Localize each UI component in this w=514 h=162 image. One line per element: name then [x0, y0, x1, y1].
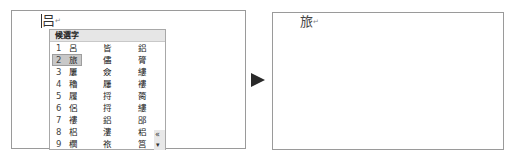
candidate-char[interactable]: 旅 — [69, 54, 78, 66]
candidate-row[interactable]: 6 侶 捋 縷 — [50, 102, 165, 114]
candidate-number: 9 — [56, 138, 61, 150]
candidate-row-selected[interactable]: 2 旅 儘 膂 — [50, 54, 165, 66]
candidate-char[interactable]: 履 — [69, 90, 78, 102]
candidate-char[interactable]: 鋁 — [103, 114, 112, 126]
candidate-char[interactable]: 膐 — [138, 90, 147, 102]
candidate-char[interactable]: 穭 — [69, 78, 78, 90]
candidate-char[interactable]: 筥 — [138, 138, 147, 150]
page-up-icon[interactable]: « — [155, 130, 160, 140]
candidate-popup-header: 候選字 — [50, 30, 165, 42]
candidate-number: 2 — [56, 54, 61, 66]
candidate-row[interactable]: 4 穭 屨 褸 — [50, 78, 165, 90]
candidate-row[interactable]: 5 履 捋 膐 — [50, 90, 165, 102]
editor-before[interactable]: 吕↵ 候選字 1 呂 皆 鋁 2 旅 儘 膂 3 屢 僉 縷 4 穭 屨 褸 — [11, 10, 246, 149]
candidate-char[interactable]: 鋁 — [138, 42, 147, 54]
candidate-char[interactable]: 侶 — [69, 102, 78, 114]
candidate-number: 1 — [56, 42, 61, 54]
candidate-char[interactable]: 縷 — [138, 66, 147, 78]
candidate-char[interactable]: 捋 — [103, 102, 112, 114]
candidate-char[interactable]: 皆 — [103, 42, 112, 54]
candidate-number: 5 — [56, 90, 61, 102]
transition-arrow-icon — [251, 73, 265, 87]
candidate-char[interactable]: 郘 — [138, 114, 147, 126]
page-down-icon[interactable]: ▾ — [156, 140, 160, 150]
paragraph-mark-icon: ↵ — [55, 17, 61, 25]
candidate-number: 4 — [56, 78, 61, 90]
candidate-row[interactable]: 8 梠 漊 稆 — [50, 126, 165, 138]
typed-char: 吕 — [42, 13, 55, 28]
candidate-char[interactable]: 呂 — [69, 42, 78, 54]
candidate-char[interactable]: 捋 — [103, 90, 112, 102]
typed-text: 吕↵ — [42, 14, 61, 28]
candidate-number: 8 — [56, 126, 61, 138]
candidate-row[interactable]: 7 褸 鋁 郘 — [50, 114, 165, 126]
result-char: 旅 — [300, 14, 313, 29]
candidate-char[interactable]: 祣 — [103, 138, 112, 150]
candidate-scrollbar[interactable]: « ▾ — [154, 130, 165, 150]
candidate-char[interactable]: 褸 — [138, 78, 147, 90]
candidate-char[interactable]: 褸 — [69, 114, 78, 126]
candidate-char[interactable]: 僉 — [103, 66, 112, 78]
candidate-popup[interactable]: 候選字 1 呂 皆 鋁 2 旅 儘 膂 3 屢 僉 縷 4 穭 屨 褸 5 履 — [49, 29, 166, 150]
candidate-row[interactable]: 9 櫚 祣 筥 — [50, 138, 165, 150]
result-text: 旅↵ — [300, 15, 319, 29]
candidate-number: 3 — [56, 66, 61, 78]
candidate-char[interactable]: 膂 — [138, 54, 147, 66]
candidate-row[interactable]: 1 呂 皆 鋁 — [50, 42, 165, 54]
candidate-char[interactable]: 梠 — [69, 126, 78, 138]
paragraph-mark-icon: ↵ — [313, 18, 319, 26]
candidate-char[interactable]: 櫚 — [69, 138, 78, 150]
candidate-char[interactable]: 稆 — [138, 126, 147, 138]
candidate-char[interactable]: 漊 — [103, 126, 112, 138]
candidate-char[interactable]: 屢 — [69, 66, 78, 78]
candidate-number: 6 — [56, 102, 61, 114]
candidate-char[interactable]: 縷 — [138, 102, 147, 114]
candidate-number: 7 — [56, 114, 61, 126]
candidate-char[interactable]: 屨 — [103, 78, 112, 90]
editor-after[interactable]: 旅↵ — [272, 12, 504, 150]
candidate-row[interactable]: 3 屢 僉 縷 — [50, 66, 165, 78]
candidate-char[interactable]: 儘 — [103, 54, 112, 66]
